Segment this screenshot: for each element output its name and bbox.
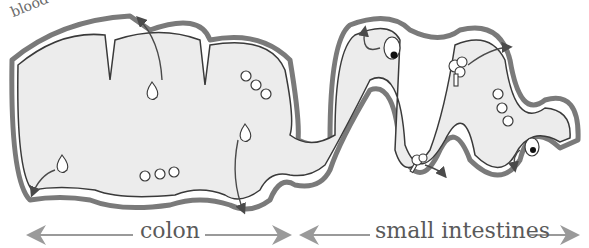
label-small-intestines: small intestines: [375, 218, 550, 243]
label-colon: colon: [140, 218, 200, 243]
intestine-diagram: [0, 0, 589, 248]
